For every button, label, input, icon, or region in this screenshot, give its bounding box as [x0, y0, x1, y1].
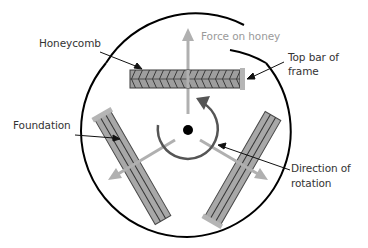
honeycomb-frame-top — [130, 68, 245, 90]
label-honeycomb: Honeycomb — [39, 37, 101, 50]
center-hub — [183, 125, 193, 135]
foundation-frame-right — [201, 111, 282, 229]
label-force-on-honey: Force on honey — [201, 30, 280, 43]
label-top-bar-line2: frame — [288, 65, 319, 78]
label-foundation: Foundation — [13, 119, 71, 132]
label-direction-line2: rotation — [291, 177, 331, 190]
label-top-bar-line1: Top bar of — [288, 51, 339, 64]
label-direction-line1: Direction of — [291, 162, 351, 175]
